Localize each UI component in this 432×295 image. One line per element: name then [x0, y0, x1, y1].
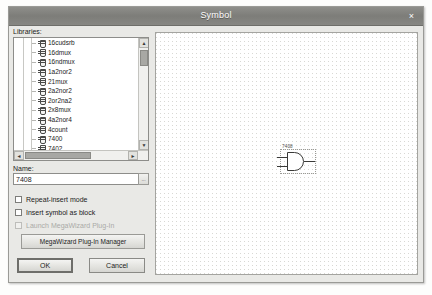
- tree-branch-line: [31, 110, 36, 111]
- tree-branch-line: [31, 100, 36, 101]
- checkbox-label: Insert symbol as block: [26, 209, 95, 216]
- chip-icon: [38, 68, 45, 75]
- name-input[interactable]: [13, 173, 138, 185]
- tree-branch-line: [31, 91, 36, 92]
- tree-branch-line: [31, 72, 36, 73]
- chip-icon: [38, 116, 45, 123]
- checkbox-label: Repeat-insert mode: [26, 196, 87, 203]
- chip-icon: [38, 135, 45, 142]
- chip-icon: [38, 97, 45, 104]
- chip-icon: [38, 126, 45, 133]
- libraries-label: Libraries:: [13, 28, 151, 35]
- tree-indent-guides: [16, 86, 38, 96]
- tree-branch-line: [31, 81, 36, 82]
- tree-item-label: 4count: [48, 125, 68, 134]
- chip-icon: [38, 106, 45, 113]
- tree-indent-guides: [16, 124, 38, 134]
- libraries-tree-viewport: 16cudsrb16dmux16ndmux1a2nor221mux2a2nor2…: [14, 38, 138, 150]
- page-background: Symbol × Libraries: 16cudsrb16dmux16ndmu…: [0, 0, 432, 295]
- scroll-left-icon[interactable]: ◄: [14, 151, 24, 160]
- chip-icon: [38, 49, 45, 56]
- tree-item[interactable]: 2or2na2: [14, 96, 138, 106]
- tree-indent-guides: [16, 57, 38, 67]
- tree-branch-line: [31, 62, 36, 63]
- tree-branch-line: [31, 120, 36, 121]
- tree-item[interactable]: 1a2nor2: [14, 67, 138, 77]
- name-field-wrapper: ...: [13, 173, 149, 185]
- tree-branch-line: [31, 52, 36, 53]
- libraries-horizontal-scrollbar[interactable]: ◄ ►: [14, 150, 148, 160]
- ok-button[interactable]: OK: [17, 258, 73, 273]
- tree-item-label: 2a2nor2: [48, 86, 72, 95]
- tree-item-label: 4a2nor4: [48, 115, 72, 124]
- horizontal-scroll-thumb[interactable]: [25, 152, 91, 159]
- tree-item-label: 1a2nor2: [48, 67, 72, 76]
- chip-icon: [38, 58, 45, 65]
- tree-indent-guides: [16, 115, 38, 125]
- tree-item[interactable]: 2x8mux: [14, 105, 138, 115]
- tree-item-label: 2or2na2: [48, 96, 72, 105]
- tree-item-label: 16ndmux: [48, 57, 75, 66]
- tree-indent-guides: [16, 76, 38, 86]
- tree-item-label: 16cudsrb: [48, 38, 75, 47]
- scroll-up-icon[interactable]: ▲: [139, 38, 149, 48]
- checkbox-box[interactable]: [15, 196, 22, 203]
- symbol-dialog: Symbol × Libraries: 16cudsrb16dmux16ndmu…: [8, 6, 424, 283]
- tree-item[interactable]: 4a2nor4: [14, 115, 138, 125]
- tree-indent-guides: [16, 134, 38, 144]
- checkbox-repeat-insert-mode[interactable]: Repeat-insert mode: [15, 194, 87, 204]
- checkbox-label: Launch MegaWizard Plug-In: [26, 222, 114, 229]
- tree-item[interactable]: 16dmux: [14, 48, 138, 58]
- tree-branch-line: [31, 43, 36, 44]
- scroll-down-icon[interactable]: ▼: [139, 140, 149, 150]
- left-panel: Libraries: 16cudsrb16dmux16ndmux1a2nor22…: [13, 28, 151, 278]
- tree-item[interactable]: 4count: [14, 124, 138, 134]
- tree-item[interactable]: 21mux: [14, 76, 138, 86]
- tree-item[interactable]: 7400: [14, 134, 138, 144]
- checkbox-box[interactable]: [15, 209, 22, 216]
- tree-indent-guides: [16, 105, 38, 115]
- tree-item[interactable]: 2a2nor2: [14, 86, 138, 96]
- tree-item-label: 21mux: [48, 77, 68, 86]
- tree-indent-guides: [16, 38, 38, 48]
- symbol-preview-canvas[interactable]: 7408: [155, 32, 418, 275]
- chip-icon: [38, 78, 45, 85]
- dialog-titlebar: Symbol ×: [9, 7, 423, 26]
- name-browse-button[interactable]: ...: [138, 173, 149, 185]
- megawizard-plugin-manager-button[interactable]: MegaWizard Plug-In Manager: [21, 234, 145, 249]
- checkbox-launch-megawizard-plugin: Launch MegaWizard Plug-In: [15, 220, 114, 230]
- checkbox-insert-symbol-as-block[interactable]: Insert symbol as block: [15, 207, 95, 217]
- checkbox-box: [15, 222, 22, 229]
- libraries-vertical-scrollbar[interactable]: ▲ ▼: [138, 38, 148, 150]
- input-pin-a: [277, 157, 287, 158]
- dialog-title: Symbol: [9, 10, 423, 20]
- libraries-tree[interactable]: 16cudsrb16dmux16ndmux1a2nor221mux2a2nor2…: [13, 37, 149, 161]
- close-icon[interactable]: ×: [404, 9, 419, 23]
- chip-icon: [38, 87, 45, 94]
- chip-icon: [38, 39, 45, 46]
- vertical-scroll-thumb[interactable]: [140, 50, 148, 66]
- tree-indent-guides: [16, 96, 38, 106]
- tree-indent-guides: [16, 67, 38, 77]
- tree-item[interactable]: 16ndmux: [14, 57, 138, 67]
- tree-item[interactable]: 16cudsrb: [14, 38, 138, 48]
- tree-item-label: 16dmux: [48, 48, 71, 57]
- input-pin-b: [277, 166, 287, 167]
- scroll-right-icon[interactable]: ►: [128, 151, 138, 160]
- output-pin-y: [304, 161, 315, 162]
- tree-indent-guides: [16, 48, 38, 58]
- symbol-label: 7408: [282, 144, 293, 149]
- tree-item-label: 7400: [48, 134, 62, 143]
- and-gate-symbol[interactable]: 7408: [274, 145, 320, 179]
- tree-branch-line: [31, 129, 36, 130]
- tree-branch-line: [31, 139, 36, 140]
- name-label: Name:: [13, 165, 34, 172]
- cancel-button[interactable]: Cancel: [89, 258, 145, 273]
- tree-item-label: 2x8mux: [48, 105, 71, 114]
